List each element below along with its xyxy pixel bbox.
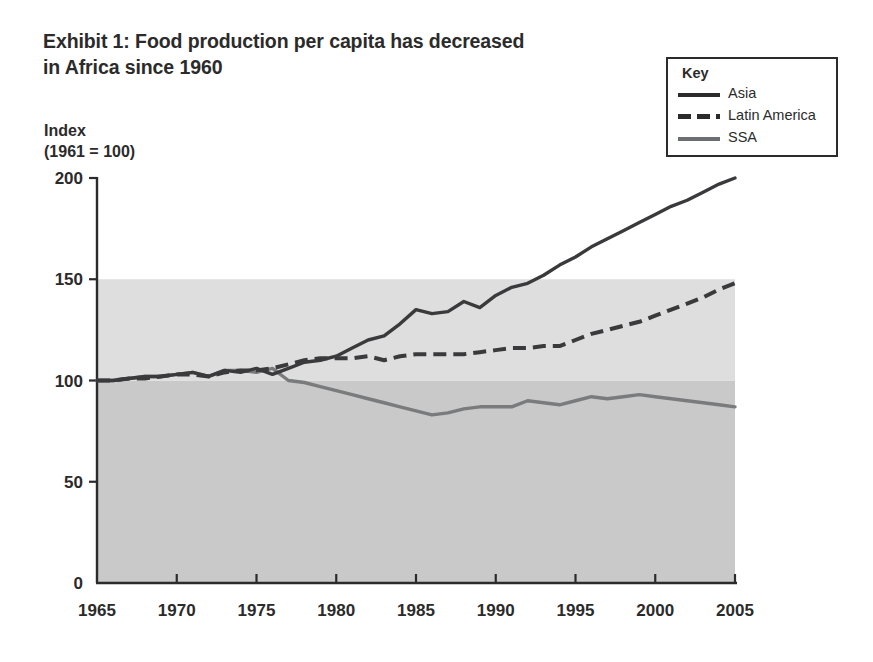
background-band-1 — [97, 279, 735, 380]
y-tick-label-150: 150 — [55, 270, 83, 289]
x-tick-label-1965: 1965 — [78, 601, 116, 620]
chart-figure: Exhibit 1: Food production per capita ha… — [0, 0, 873, 662]
x-tick-label-1990: 1990 — [477, 601, 515, 620]
x-tick-label-2005: 2005 — [716, 601, 754, 620]
x-tick-label-1985: 1985 — [397, 601, 435, 620]
chart-svg: 050100150200 196519701975198019851990199… — [0, 0, 873, 662]
y-tick-label-0: 0 — [74, 574, 83, 593]
x-tick-label-1995: 1995 — [557, 601, 595, 620]
x-tick-label-2000: 2000 — [636, 601, 674, 620]
y-tick-label-100: 100 — [55, 372, 83, 391]
x-tick-label-1970: 1970 — [158, 601, 196, 620]
y-tick-label-200: 200 — [55, 169, 83, 188]
y-tick-label-50: 50 — [64, 473, 83, 492]
y-axis-tick-labels: 050100150200 — [55, 169, 83, 593]
x-axis-tick-labels: 196519701975198019851990199520002005 — [78, 601, 754, 620]
background-bands — [97, 279, 735, 583]
x-tick-label-1980: 1980 — [317, 601, 355, 620]
x-tick-label-1975: 1975 — [238, 601, 276, 620]
plot-area: 050100150200 196519701975198019851990199… — [0, 0, 873, 662]
